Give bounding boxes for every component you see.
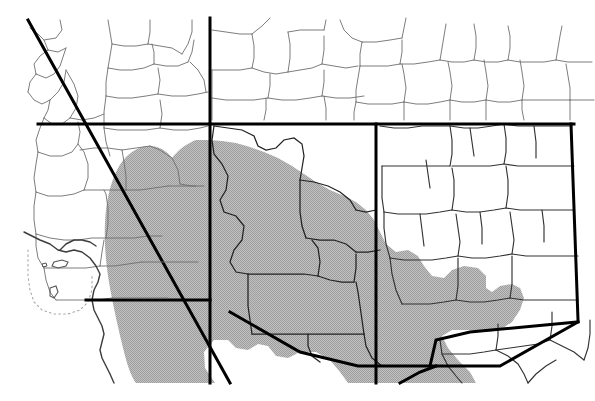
- range-map-figure: [0, 0, 595, 401]
- map-canvas: [0, 0, 595, 401]
